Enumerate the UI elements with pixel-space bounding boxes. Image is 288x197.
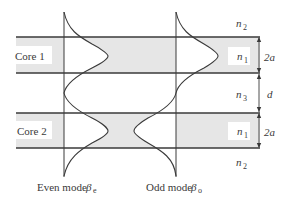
svg-text:n: n [236, 17, 242, 29]
gap-label: d [267, 88, 273, 100]
core-2-thickness-label: 2a [264, 126, 276, 138]
svg-text:n: n [237, 125, 243, 137]
svg-text:β: β [85, 181, 92, 193]
svg-text:1: 1 [244, 56, 248, 65]
svg-text:Even mode: Even mode [37, 181, 87, 193]
svg-text:2: 2 [243, 23, 247, 32]
cladding-bottom-index-label: n 2 [236, 156, 247, 171]
core-1-thickness-label: 2a [264, 51, 276, 63]
svg-text:β: β [190, 181, 197, 193]
svg-text:3: 3 [243, 94, 247, 103]
odd-mode-caption: Odd mode β o [146, 181, 202, 195]
cladding-top-index-label: n 2 [236, 17, 247, 32]
svg-text:n: n [236, 156, 242, 168]
svg-text:o: o [198, 186, 202, 195]
svg-text:e: e [93, 186, 97, 195]
svg-text:n: n [236, 88, 242, 100]
svg-text:2: 2 [243, 162, 247, 171]
cladding-between-index-label: n 3 [236, 88, 247, 103]
core-2-label: Core 2 [17, 125, 47, 137]
even-mode-caption: Even mode β e [37, 181, 97, 195]
svg-text:n: n [237, 50, 243, 62]
coupled-waveguide-diagram: Core 1 Core 2 n 2 n 1 n 3 n 1 n 2 2a d 2… [0, 0, 288, 197]
core-1-label: Core 1 [15, 50, 45, 62]
core-1-band [16, 37, 260, 73]
svg-text:Odd mode: Odd mode [146, 181, 192, 193]
svg-text:1: 1 [244, 131, 248, 140]
